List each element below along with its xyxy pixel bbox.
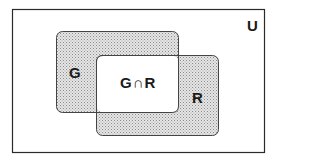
- set-r-label: R: [192, 90, 203, 105]
- set-g-label: G: [69, 65, 81, 80]
- universe-label: U: [247, 18, 258, 33]
- intersection-label: G∩R: [120, 75, 156, 90]
